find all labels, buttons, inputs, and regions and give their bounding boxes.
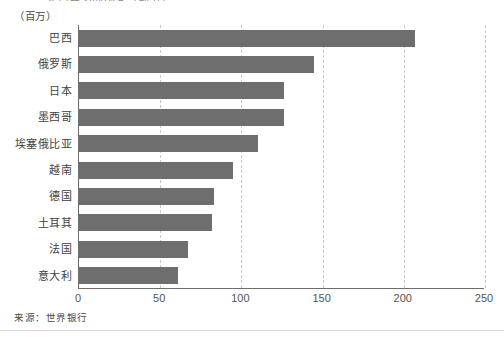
bar-row	[79, 78, 485, 104]
y-axis-label-法国: 法国	[0, 236, 72, 262]
source-note: 来源：世界银行	[14, 310, 88, 324]
bar-row	[79, 183, 485, 209]
y-axis-label-土耳其: 土耳其	[0, 210, 72, 236]
plot-area	[78, 25, 484, 289]
bar-chart: 巴西俄罗斯日本墨西哥埃塞俄比亚越南德国土耳其法国意大利 050100150200…	[0, 22, 504, 302]
x-axis-tick-200: 200	[394, 292, 412, 304]
bar-row	[79, 263, 485, 289]
y-axis-label-意大利: 意大利	[0, 263, 72, 289]
y-axis-category-labels: 巴西俄罗斯日本墨西哥埃塞俄比亚越南德国土耳其法国意大利	[0, 25, 72, 289]
bar-row	[79, 236, 485, 262]
bar-日本	[79, 82, 284, 99]
x-axis-tick-50: 50	[153, 292, 165, 304]
bar-row	[79, 104, 485, 130]
y-axis-label-埃塞俄比亚: 埃塞俄比亚	[0, 131, 72, 157]
bar-德国	[79, 188, 214, 205]
bar-series	[79, 25, 484, 288]
bar-row	[79, 25, 485, 51]
bar-土耳其	[79, 214, 212, 231]
y-axis-label-日本: 日本	[0, 78, 72, 104]
gridline-250	[485, 25, 486, 288]
bar-row	[79, 51, 485, 77]
y-axis-label-德国: 德国	[0, 183, 72, 209]
bar-意大利	[79, 267, 178, 284]
bar-越南	[79, 162, 233, 179]
bar-埃塞俄比亚	[79, 135, 258, 152]
y-axis-label-越南: 越南	[0, 157, 72, 183]
x-axis-tick-labels: 050100150200250	[0, 292, 504, 312]
x-axis-tick-100: 100	[231, 292, 249, 304]
bar-墨西哥	[79, 109, 284, 126]
bar-巴西	[79, 30, 415, 47]
y-axis-label-俄罗斯: 俄罗斯	[0, 51, 72, 77]
bar-row	[79, 131, 485, 157]
bar-row	[79, 157, 485, 183]
bar-row	[79, 210, 485, 236]
unit-caption: （百万）	[14, 8, 56, 23]
y-axis-label-巴西: 巴西	[0, 25, 72, 51]
bar-法国	[79, 241, 188, 258]
figure-clipped-title: 人口最多的国家（部分）	[46, 0, 173, 1]
bottom-divider	[0, 330, 504, 331]
y-axis-label-墨西哥: 墨西哥	[0, 104, 72, 130]
bar-俄罗斯	[79, 56, 314, 73]
x-axis-tick-0: 0	[75, 292, 81, 304]
x-axis-tick-250: 250	[475, 292, 493, 304]
x-axis-tick-150: 150	[312, 292, 330, 304]
